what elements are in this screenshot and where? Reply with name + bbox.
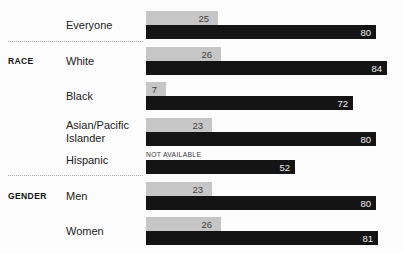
bar-bottom-black: 80 xyxy=(146,196,376,210)
bar-bottom-black: 84 xyxy=(146,61,387,75)
group-label-race: RACE xyxy=(8,47,64,75)
category-label: Men xyxy=(66,182,146,210)
bar-value: 26 xyxy=(201,219,212,230)
bar-value: 72 xyxy=(337,98,348,109)
group-label-gender: GENDER xyxy=(8,182,64,210)
bar-value: 80 xyxy=(360,27,371,38)
bar-value: 81 xyxy=(362,233,373,244)
category-label: Black xyxy=(66,82,146,110)
bar-value: 25 xyxy=(198,13,209,24)
bar-top-gray: 23 xyxy=(146,182,212,196)
separator-line xyxy=(8,175,143,176)
bar-bottom-black: 81 xyxy=(146,231,378,245)
bar-value: 52 xyxy=(279,162,290,173)
category-label: Asian/Pacific Islander xyxy=(66,118,146,146)
bar-top-gray: 26 xyxy=(146,47,221,61)
separator-line xyxy=(8,41,143,42)
bar-top-gray: 7 xyxy=(146,82,166,96)
bar-value: 84 xyxy=(371,63,382,74)
bar-value: 80 xyxy=(360,198,371,209)
bar-value: 23 xyxy=(192,120,203,131)
bar-top-gray: 26 xyxy=(146,217,221,231)
bar-top-gray: 23 xyxy=(146,118,212,132)
bar-top-gray: 25 xyxy=(146,11,218,25)
category-label: White xyxy=(66,47,146,75)
category-label: Women xyxy=(66,217,146,245)
bar-value: 23 xyxy=(192,184,203,195)
bar-value: 80 xyxy=(360,134,371,145)
bar-bottom-black: 80 xyxy=(146,132,376,146)
bar-bottom-black: 52 xyxy=(146,160,295,174)
category-label: Everyone xyxy=(66,11,146,39)
bar-value: 7 xyxy=(152,84,157,95)
category-label: Hispanic xyxy=(66,146,146,174)
grouped-bar-chart: Everyone2580RACEWhite2684Black772Asian/P… xyxy=(0,0,403,253)
not-available-label: NOT AVAILABLE xyxy=(146,146,201,160)
bar-bottom-black: 72 xyxy=(146,96,353,110)
bar-value: 26 xyxy=(201,49,212,60)
bar-bottom-black: 80 xyxy=(146,25,376,39)
